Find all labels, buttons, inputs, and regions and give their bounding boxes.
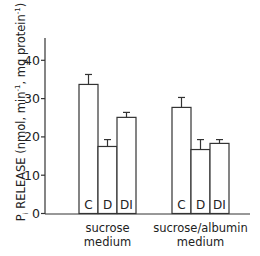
- group-label: sucrose/albumin: [153, 221, 248, 235]
- group-label: sucrose: [85, 221, 129, 235]
- bar-category-label: DI: [213, 198, 226, 212]
- bar-chart: 010203040 CDDICDDI sucrosemediumsucrose/…: [0, 0, 260, 256]
- bar-category-label: D: [103, 198, 112, 212]
- group-label: medium: [84, 235, 131, 249]
- bar-category-label: D: [196, 198, 205, 212]
- y-tick-label: 0: [32, 206, 40, 221]
- bar: [79, 84, 98, 213]
- group-label: medium: [177, 235, 224, 249]
- bar-category-label: DI: [120, 198, 133, 212]
- bar-category-label: C: [84, 198, 92, 212]
- bar-category-label: C: [177, 198, 185, 212]
- y-axis-label: Pi RELEASE (nmol, min-1, mg protein-1): [14, 3, 30, 222]
